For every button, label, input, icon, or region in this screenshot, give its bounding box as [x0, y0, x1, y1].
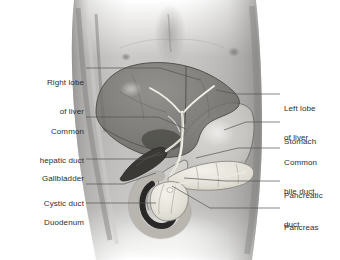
label-pancreatic-duct-line1: Pancreatic	[284, 191, 340, 201]
left-nipple	[121, 53, 131, 61]
label-duodenum-line1: Duodenum	[6, 218, 84, 228]
label-right-lobe-of-liver-line1: Right lobe	[6, 78, 84, 88]
label-left-lobe-of-liver-line1: Left lobe	[284, 104, 340, 114]
hepatopancreatic-ampulla	[167, 188, 173, 193]
right-nipple	[228, 47, 240, 57]
label-common-bile-duct-line1: Common	[284, 158, 340, 168]
label-pancreas: Pancreas	[284, 204, 340, 252]
label-pancreas-line1: Pancreas	[284, 223, 340, 233]
liver-highlight	[120, 81, 142, 97]
illustration-root: Right lobe of liver Common hepatic duct …	[0, 0, 340, 260]
label-duodenum: Duodenum	[6, 199, 84, 247]
label-common-hepatic-duct-line1: Common	[6, 127, 84, 137]
